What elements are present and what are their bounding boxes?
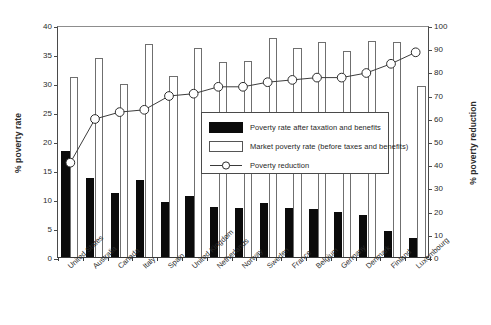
legend-item-poverty-reduction: Poverty reduction [209,156,382,174]
y-tick-right [428,73,432,74]
y-tick-label-right: 40 [434,162,443,170]
y-tick-label-left: 0 [48,255,52,263]
line-marker [91,115,100,124]
x-tick [58,257,59,261]
line-marker [387,59,396,68]
y-tick-right [428,50,432,51]
y-tick-label-right: 90 [434,46,443,54]
y-tick-right [428,236,432,237]
y-tick-label-left: 40 [43,23,52,31]
y-tick-label-right: 70 [434,93,443,101]
y-tick-right [428,213,432,214]
y-tick-right [428,143,432,144]
y-tick-label-left: 30 [43,81,52,89]
black-swatch-icon [209,122,243,133]
line-marker [239,82,248,91]
legend-item-after-tax: Poverty rate after taxation and benefits [209,118,382,136]
y-tick-label-left: 5 [48,226,52,234]
white-swatch-icon [209,141,243,152]
legend-label-poverty-reduction: Poverty reduction [250,161,309,170]
line-marker [165,92,174,101]
line-marker [313,73,322,82]
line-marker [214,82,223,91]
y-tick-right [428,166,432,167]
line-marker [115,108,124,117]
y-tick-label-right: 80 [434,69,443,77]
y-axis-title-right: % poverty reduction [468,73,478,213]
y-tick-label-right: 100 [434,23,447,31]
y-tick-label-right: 50 [434,139,443,147]
poverty-chart: % poverty rate % poverty reduction 05101… [0,0,491,325]
y-tick-right [428,120,432,121]
y-tick-label-left: 20 [43,139,52,147]
line-marker [66,158,75,167]
y-tick-label-left: 10 [43,197,52,205]
line-marker [189,89,198,98]
line-marker [362,69,371,78]
y-tick-right [428,189,432,190]
y-tick-right [428,97,432,98]
circle-line-icon [209,160,243,170]
line-marker [337,73,346,82]
y-tick-right [428,27,432,28]
y-tick-label-right: 20 [434,209,443,217]
y-tick-label-right: 30 [434,185,443,193]
y-axis-title-left: % poverty rate [13,73,23,213]
line-marker [411,48,420,57]
chart-legend: Poverty rate after taxation and benefits… [201,112,389,174]
line-marker [288,76,297,85]
legend-label-after-tax: Poverty rate after taxation and benefits [250,123,381,132]
line-marker [140,105,149,114]
y-tick-label-right: 60 [434,116,443,124]
y-tick-label-left: 35 [43,52,52,60]
line-marker [263,78,272,87]
y-tick-label-left: 25 [43,110,52,118]
legend-label-market-rate: Market poverty rate (before taxes and be… [250,142,408,151]
y-tick-label-left: 15 [43,168,52,176]
legend-item-market-rate: Market poverty rate (before taxes and be… [209,137,382,155]
